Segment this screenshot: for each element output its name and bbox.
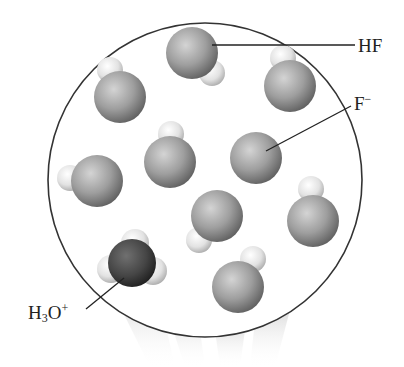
hf-label-text: HF xyxy=(358,35,382,56)
fluorine-atom xyxy=(212,261,264,313)
hydronium-h: H xyxy=(28,302,42,323)
fluoride-ion xyxy=(230,132,282,184)
hf-label: HF xyxy=(358,36,382,55)
fluoride-symbol: F xyxy=(354,93,365,114)
fluorine-atom xyxy=(287,195,339,247)
fluorine-atom xyxy=(264,60,316,112)
hf-molecule xyxy=(264,45,316,112)
oxygen-atom xyxy=(108,239,156,287)
hydronium-label: H3O+ xyxy=(28,302,68,324)
fluorine-atom xyxy=(71,155,123,207)
fluoride-atom xyxy=(230,132,282,184)
fluorine-atom xyxy=(166,27,218,79)
hydronium-charge: + xyxy=(61,301,68,315)
fluorine-atom xyxy=(94,71,146,123)
fluorine-atom xyxy=(191,190,243,242)
fluorine-atom xyxy=(144,136,196,188)
fluoride-label: F− xyxy=(354,93,371,113)
fluoride-charge: − xyxy=(365,92,372,106)
hydronium-o: O xyxy=(48,302,62,323)
